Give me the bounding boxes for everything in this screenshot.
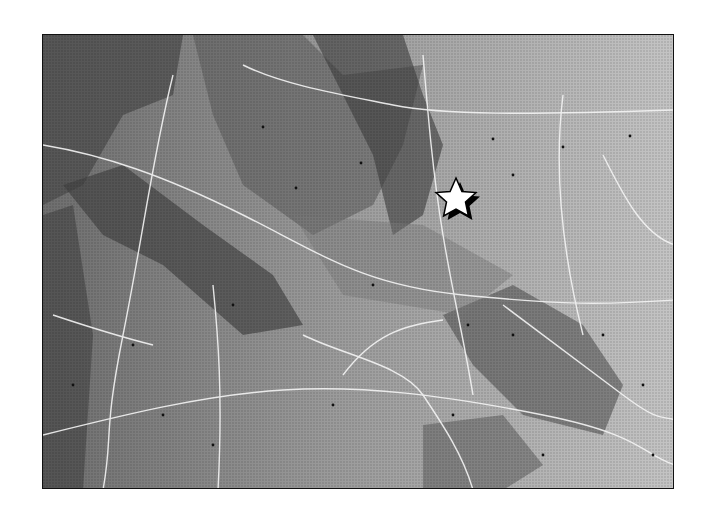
relief-map — [42, 34, 674, 489]
location-star-marker — [43, 35, 674, 489]
